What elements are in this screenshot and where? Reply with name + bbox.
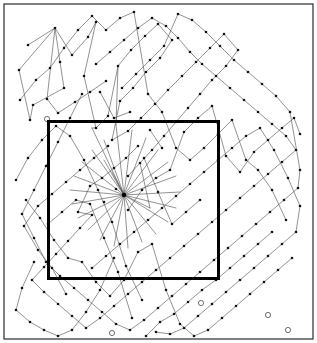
graph-node — [197, 117, 200, 120]
graph-node — [267, 173, 270, 176]
graph-node — [125, 265, 128, 268]
graph-node — [247, 71, 250, 74]
graph-node — [299, 133, 302, 136]
graph-node — [95, 127, 98, 130]
graph-node — [57, 112, 60, 115]
graph-node — [187, 301, 190, 304]
graph-node — [281, 161, 284, 164]
graph-node — [87, 36, 90, 39]
graph-node — [243, 255, 246, 258]
graph-node — [199, 271, 202, 274]
graph-node — [199, 93, 202, 96]
graph-node — [93, 157, 96, 160]
graph-node — [57, 303, 60, 306]
graph-node — [115, 323, 118, 326]
graph-node — [127, 175, 130, 178]
graph-node — [119, 100, 122, 103]
graph-node — [175, 195, 178, 198]
graph-node — [67, 240, 70, 243]
graph-node — [271, 123, 274, 126]
graph-node — [219, 45, 222, 48]
graph-node — [151, 149, 154, 152]
graph-node — [155, 177, 158, 180]
graph-node — [149, 129, 152, 132]
graph-node — [57, 141, 60, 144]
graph-node — [169, 169, 172, 172]
graph-node — [103, 201, 106, 204]
graph-node — [275, 95, 278, 98]
graph-node — [295, 231, 298, 234]
graph-node — [149, 59, 152, 62]
graph-node — [74, 101, 77, 104]
graph-node — [203, 147, 206, 150]
graph-node — [119, 243, 122, 246]
graph-node — [295, 149, 298, 152]
graph-node — [69, 135, 72, 138]
graph-node — [85, 327, 88, 330]
graph-node — [185, 211, 188, 214]
graph-node — [65, 293, 68, 296]
graph-node — [157, 307, 160, 310]
graph-node — [169, 257, 172, 260]
graph-node — [141, 189, 144, 192]
graph-node — [83, 75, 86, 78]
graph-node — [259, 127, 262, 130]
graph-node — [293, 117, 296, 120]
graph-node — [89, 91, 92, 94]
graph-node — [109, 295, 112, 298]
ring-node — [109, 330, 114, 335]
graph-node — [41, 139, 44, 142]
graph-node — [77, 29, 80, 32]
graph-node — [15, 309, 18, 312]
graph-node — [33, 189, 36, 192]
graph-node — [215, 75, 218, 78]
graph-node — [201, 289, 204, 292]
graph-node — [203, 171, 206, 174]
graph-node — [191, 19, 194, 22]
graph-node — [245, 159, 248, 162]
graph-node — [211, 105, 214, 108]
graph-node — [63, 47, 66, 50]
graph-node — [129, 111, 132, 114]
ring-node — [265, 312, 270, 317]
graph-node — [77, 211, 80, 214]
graph-node — [145, 335, 148, 338]
graph-node — [177, 13, 180, 16]
graph-node — [183, 327, 186, 330]
graph-node — [107, 145, 110, 148]
graph-node — [253, 185, 256, 188]
graph-node — [229, 267, 232, 270]
graph-node — [271, 189, 274, 192]
graph-node — [161, 207, 164, 210]
graph-node — [197, 233, 200, 236]
graph-node — [105, 29, 108, 32]
graph-node — [115, 188, 118, 191]
graph-node — [71, 315, 74, 318]
graph-node — [189, 159, 192, 162]
hub-node[interactable] — [122, 193, 126, 197]
graph-node — [159, 57, 162, 60]
graph-node — [167, 89, 170, 92]
graph-node — [32, 104, 35, 107]
graph-node — [27, 157, 30, 160]
graph-node — [185, 283, 188, 286]
graph-node — [79, 227, 82, 230]
graph-node — [144, 35, 147, 38]
graph-node — [173, 313, 176, 316]
graph-node — [197, 315, 200, 318]
graph-node — [239, 279, 242, 282]
graph-node — [123, 39, 126, 42]
graph-node — [113, 257, 116, 260]
graph-node — [237, 49, 240, 52]
graph-node — [163, 135, 166, 138]
graph-node — [83, 159, 86, 162]
graph-node — [141, 299, 144, 302]
graph-node — [61, 211, 64, 214]
graph-node — [21, 287, 24, 290]
graph-node — [89, 185, 92, 188]
graph-node — [89, 203, 92, 206]
graph-node — [143, 319, 146, 322]
graph-node — [225, 291, 228, 294]
graph-node — [187, 107, 190, 110]
graph-node — [37, 205, 40, 208]
